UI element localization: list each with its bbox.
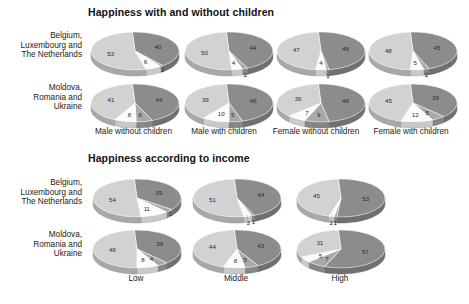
pie-slice-value: 5 (244, 256, 248, 263)
pie-slice-value: 9 (317, 111, 321, 118)
pie-slice-side (410, 69, 424, 76)
pie-slice-value: 48 (342, 97, 349, 104)
pie-slice-value: 54 (109, 196, 116, 203)
pie-slice-value: 1 (161, 66, 165, 73)
pie-slice-value: 49 (109, 246, 116, 253)
panel-title-bottom: Happiness according to income (88, 152, 250, 164)
row-label-moldova-bottom: Moldova,Romania andUkraine (0, 230, 82, 259)
pie-slice-value: 8 (234, 257, 238, 264)
pie-slice-value: 31 (316, 239, 323, 246)
pie-chart: 441351 (178, 171, 296, 229)
row-label-benelux-top: Belgium,Luxembourg andThe Netherlands (0, 31, 82, 60)
pie-slice-value: 50 (201, 49, 208, 56)
pie-slice-value: 45 (313, 192, 320, 199)
pie-slice-value: 39 (156, 240, 163, 247)
pie-slice-value: 7 (325, 255, 329, 262)
pie-slice-value: 45 (434, 44, 441, 51)
pie-slice-value: 44 (249, 44, 256, 51)
pie-chart: 3951245 (354, 76, 469, 134)
pie-slice-value: 53 (107, 50, 114, 57)
pie-slice-value: 51 (209, 196, 216, 203)
pie-slice-value: 43 (257, 242, 264, 249)
panel-title-top: Happiness with and without children (88, 6, 274, 18)
pie-slice-value: 3 (168, 210, 172, 217)
row-label-benelux-bottom: Belgium,Luxembourg andThe Netherlands (0, 178, 82, 207)
pie-slice-value: 10 (218, 110, 225, 117)
pie-slice-value: 5 (426, 109, 430, 116)
pie-slice-value: 5 (414, 59, 418, 66)
pie-slice-value: 40 (154, 43, 161, 50)
pie-slice-value: 39 (155, 189, 162, 196)
pie-slice-value: 57 (362, 248, 369, 255)
pie-slice-value: 44 (156, 96, 163, 103)
pie-slice-value: 44 (258, 191, 265, 198)
pie-slice-value: 48 (342, 45, 349, 52)
pie-slice-value: 6 (139, 111, 143, 118)
pie-slice-value: 7 (305, 109, 309, 116)
pie-slice-value: 46 (250, 97, 257, 104)
row-label-moldova-top: Moldova,Romania andUkraine (0, 83, 82, 112)
pie-slice-value: 4 (150, 255, 154, 262)
pie-slice-value: 36 (295, 95, 302, 102)
pie-slice-value: 44 (209, 243, 216, 250)
pie-slice-value: 4 (319, 59, 323, 66)
pie-slice-value: 39 (432, 94, 439, 101)
pie-slice-value: 39 (202, 96, 209, 103)
pie-slice-value: 45 (385, 97, 392, 104)
pie-slice-value: 53 (362, 195, 369, 202)
pie-slice-value: 11 (144, 205, 151, 212)
pie-chart: 531245 (282, 171, 400, 229)
pie-slice-value: 8 (141, 256, 145, 263)
pie-slice-value: 6 (144, 58, 148, 65)
pie-slice-value: 48 (385, 47, 392, 54)
pie-slice-value: 47 (293, 46, 300, 53)
pie-chart: 435844 (178, 222, 296, 280)
pie-slice-value: 4 (232, 59, 236, 66)
pie-slice-value: 8 (128, 111, 132, 118)
pie-slice-value: 12 (412, 111, 419, 118)
pie-chart: 452548 (354, 24, 469, 82)
pie-chart: 577531 (282, 222, 400, 280)
pie-slice-value: 41 (107, 96, 114, 103)
pie-slice-value: 5 (319, 252, 323, 259)
pie-slice-value: 5 (231, 111, 235, 118)
